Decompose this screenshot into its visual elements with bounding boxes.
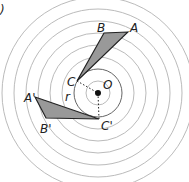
label-b: B bbox=[97, 21, 105, 35]
triangle-abc bbox=[77, 32, 128, 81]
label-c: C bbox=[67, 75, 76, 89]
part-label: ) bbox=[0, 3, 5, 17]
label-a-prime: A' bbox=[23, 91, 36, 105]
label-b-prime: B' bbox=[40, 122, 52, 136]
rotation-diagram: ) B A C O r A' B' C' bbox=[0, 0, 189, 182]
label-a: A bbox=[129, 21, 138, 35]
radius-line-oc-prime bbox=[98, 93, 99, 119]
label-r: r bbox=[65, 90, 71, 104]
center-point bbox=[95, 90, 101, 96]
label-o: O bbox=[103, 78, 112, 92]
label-c-prime: C' bbox=[101, 119, 113, 133]
